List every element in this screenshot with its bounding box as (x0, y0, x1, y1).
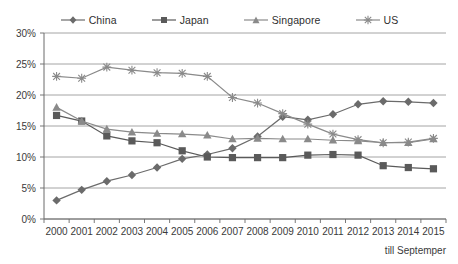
x-axis-label: 2013 (372, 226, 395, 237)
x-axis-label: 2009 (272, 226, 295, 237)
y-axis-label: 15% (16, 121, 36, 132)
data-point (178, 69, 187, 78)
y-axis-labels: 0%5%10%15%20%25%30% (16, 28, 36, 225)
data-point (153, 68, 162, 77)
data-point (52, 103, 60, 111)
data-point (102, 63, 111, 72)
x-axis-label: 2006 (196, 226, 219, 237)
data-point (203, 72, 212, 81)
data-point (430, 165, 437, 172)
data-point (153, 163, 161, 171)
data-point (128, 137, 135, 144)
data-series (52, 63, 438, 205)
y-axis-label: 25% (16, 59, 36, 70)
data-point (52, 72, 61, 81)
data-point (77, 74, 86, 83)
data-point (204, 153, 211, 160)
x-axis-label: 2007 (221, 226, 244, 237)
data-point (279, 154, 286, 161)
data-point (228, 144, 236, 152)
data-point (253, 99, 262, 108)
data-point (153, 139, 160, 146)
data-point (53, 112, 60, 119)
plot-area: 0%5%10%15%20%25%30% 20002001200220032004… (0, 0, 458, 264)
series-line (57, 101, 434, 200)
data-point (303, 120, 312, 129)
data-point (405, 164, 412, 171)
y-axis-label: 0% (22, 214, 37, 225)
data-point (404, 98, 412, 106)
y-axis-ticks (40, 33, 44, 219)
x-axis-label: 2012 (347, 226, 370, 237)
data-point (103, 132, 110, 139)
x-axis-label: 2003 (121, 226, 144, 237)
data-point (179, 147, 186, 154)
data-point (429, 134, 438, 143)
data-point (178, 155, 186, 163)
x-axis-label: 2015 (422, 226, 445, 237)
x-axis-labels: 2000200120022003200420052006200720082009… (45, 226, 445, 237)
gridlines (44, 33, 446, 219)
x-axis-label: 2004 (146, 226, 169, 237)
data-point (304, 152, 311, 159)
data-point (354, 152, 361, 159)
data-point (429, 99, 437, 107)
x-axis-label: 2011 (322, 226, 344, 237)
data-point (228, 93, 237, 102)
data-point (128, 171, 136, 179)
data-point (229, 154, 236, 161)
data-point (354, 135, 363, 144)
x-axis-label: 2008 (246, 226, 269, 237)
line-chart: China Japan Singapore US (0, 0, 458, 264)
x-axis-label: 2005 (171, 226, 194, 237)
data-point (329, 130, 338, 139)
data-point (254, 154, 261, 161)
y-axis-label: 10% (16, 152, 36, 163)
y-axis-label: 30% (16, 28, 36, 39)
data-point (77, 186, 85, 194)
data-point (354, 100, 362, 108)
data-point (128, 66, 137, 75)
y-axis-label: 20% (16, 90, 36, 101)
data-point (52, 196, 60, 204)
plot-svg: 0%5%10%15%20%25%30% 20002001200220032004… (0, 0, 458, 264)
y-axis-label: 5% (22, 183, 37, 194)
x-axis-ticks (44, 219, 446, 223)
chart-footnote: till Septemper (385, 245, 446, 256)
x-axis-label: 2001 (71, 226, 94, 237)
x-axis-label: 2014 (397, 226, 420, 237)
data-point (380, 162, 387, 169)
data-point (329, 151, 336, 158)
data-point (278, 109, 287, 118)
data-point (379, 138, 388, 147)
data-point (404, 138, 413, 147)
data-point (379, 97, 387, 105)
x-axis-label: 2002 (96, 226, 119, 237)
series-line (57, 67, 434, 143)
data-point (329, 110, 337, 118)
x-axis-label: 2010 (297, 226, 320, 237)
series-china (52, 97, 437, 205)
data-point (103, 177, 111, 185)
x-axis-label: 2000 (45, 226, 68, 237)
